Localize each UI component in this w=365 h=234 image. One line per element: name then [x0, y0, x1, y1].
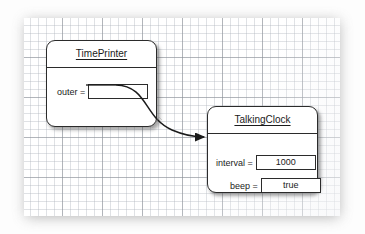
uml-object-diagram-screenshot: TimePrinter outer = TalkingClock interva…: [0, 0, 365, 234]
object-title-timeprinter: TimePrinter: [47, 41, 156, 68]
object-body-talkingclock: interval = 1000 beep = true: [208, 134, 317, 192]
object-title-talkingclock: TalkingClock: [208, 107, 317, 134]
field-value-beep[interactable]: true: [261, 178, 321, 193]
field-row-outer: outer =: [57, 84, 148, 99]
object-title-timeprinter-text: TimePrinter: [76, 48, 127, 59]
graph-paper-canvas: TimePrinter outer = TalkingClock interva…: [24, 18, 340, 216]
object-box-talkingclock[interactable]: TalkingClock interval = 1000 beep = true: [207, 106, 318, 193]
field-value-outer[interactable]: [88, 84, 148, 99]
field-label-interval: interval =: [216, 158, 253, 168]
field-label-outer: outer =: [57, 87, 85, 97]
pencil-smudge-mark: [150, 114, 166, 130]
field-row-beep: beep = true: [230, 178, 321, 193]
field-label-beep: beep =: [230, 181, 258, 191]
object-box-timeprinter[interactable]: TimePrinter outer =: [46, 40, 157, 127]
object-body-timeprinter: outer =: [47, 68, 156, 126]
field-row-interval: interval = 1000: [216, 155, 316, 170]
field-value-interval[interactable]: 1000: [256, 155, 316, 170]
object-title-talkingclock-text: TalkingClock: [234, 114, 290, 125]
